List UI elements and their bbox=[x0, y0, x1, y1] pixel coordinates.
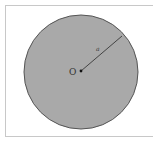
center-label: O bbox=[69, 67, 76, 77]
center-point bbox=[80, 70, 83, 73]
circle-diagram: O a bbox=[0, 0, 153, 147]
radius-label: a bbox=[96, 45, 100, 52]
diagram-canvas: O a bbox=[0, 0, 153, 147]
